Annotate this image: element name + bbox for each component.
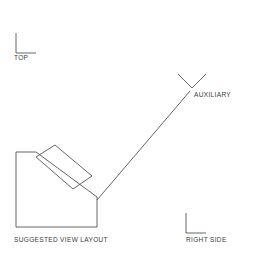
- corner-mark-path: [186, 213, 206, 233]
- view-label-auxiliary: AUXILIARY: [194, 92, 231, 99]
- object-body-outline: [16, 152, 97, 227]
- auxiliary-leader-line: [97, 91, 190, 200]
- corner-mark-rotated-icon-auxiliary: [178, 74, 206, 88]
- figure-caption: SUGGESTED VIEW LAYOUT: [14, 237, 108, 244]
- view-label-top: TOP: [14, 55, 28, 62]
- view-label-right-side: RIGHT SIDE: [186, 237, 227, 244]
- corner-mark-icon-right-side: [186, 213, 206, 233]
- corner-mark-path: [16, 33, 36, 53]
- corner-mark-path: [178, 74, 206, 88]
- technical-drawing-canvas: [0, 0, 258, 257]
- inclined-block-outline: [36, 145, 92, 189]
- corner-mark-icon-top: [16, 33, 36, 53]
